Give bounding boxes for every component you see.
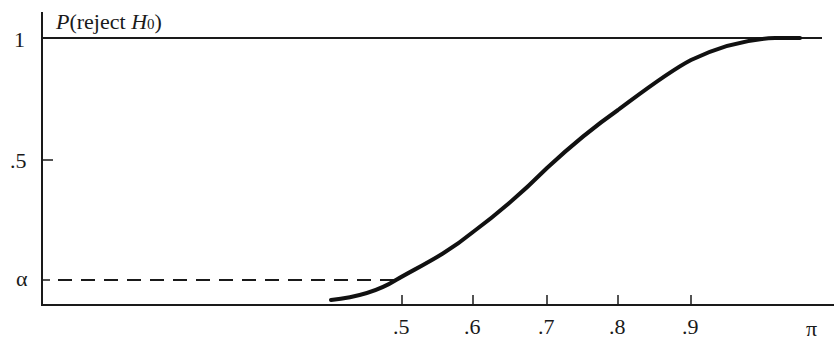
y-title-h: H bbox=[131, 9, 147, 34]
y-tick-label-alpha: α bbox=[16, 268, 28, 290]
y-axis-title: P(reject H0) bbox=[56, 11, 162, 33]
y-title-text: (reject bbox=[69, 9, 131, 34]
x-tick-label-2: .7 bbox=[538, 316, 555, 338]
y-title-p: P bbox=[56, 9, 69, 34]
y-title-sub: 0 bbox=[147, 16, 155, 32]
x-ticks bbox=[402, 295, 691, 305]
y-tick-label-one: 1 bbox=[14, 29, 25, 51]
power-curve-chart bbox=[0, 0, 834, 347]
x-tick-label-4: .9 bbox=[682, 316, 699, 338]
y-title-close: ) bbox=[155, 9, 162, 34]
x-tick-label-1: .6 bbox=[464, 316, 481, 338]
x-tick-label-3: .8 bbox=[609, 316, 626, 338]
x-tick-label-0: .5 bbox=[393, 316, 410, 338]
y-tick-label-half: .5 bbox=[10, 150, 27, 172]
x-axis-label: π bbox=[806, 318, 817, 340]
power-curve bbox=[331, 38, 800, 300]
